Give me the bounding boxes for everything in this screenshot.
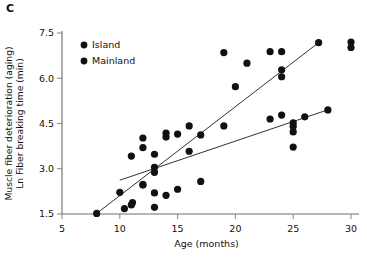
data-point-mainland	[121, 205, 128, 212]
x-tick-label: 25	[287, 223, 299, 234]
data-point-mainland	[139, 181, 146, 188]
y-axis-title-line1: Muscle fiber deterioration (aging)	[3, 46, 14, 200]
x-tick-label: 30	[345, 223, 357, 234]
regression-line-mainland	[120, 109, 330, 180]
y-tick-label: 1.5	[39, 208, 54, 219]
y-tick-label: 6.0	[39, 73, 54, 84]
data-point-island	[139, 134, 146, 141]
data-point-island	[197, 131, 204, 138]
legend-marker-island	[81, 42, 88, 49]
data-point-mainland	[220, 122, 227, 129]
x-axis-title: Age (months)	[174, 238, 239, 249]
y-tick-label: 3.0	[39, 163, 54, 174]
data-point-island	[162, 130, 169, 137]
data-point-mainland	[129, 199, 136, 206]
legend-marker-mainland	[81, 58, 88, 65]
data-point-mainland	[278, 111, 285, 118]
data-point-island	[315, 39, 322, 46]
data-point-mainland	[162, 192, 169, 199]
data-point-island	[266, 48, 273, 55]
data-point-island	[139, 144, 146, 151]
data-point-island	[278, 73, 285, 80]
data-point-mainland	[266, 115, 273, 122]
legend-label-mainland: Mainland	[92, 55, 135, 66]
regression-line-island	[97, 43, 319, 214]
data-point-island	[347, 44, 354, 51]
y-tick-label: 7.5	[39, 27, 54, 38]
y-axis-title-line2: Ln Fiber breaking time (min)	[14, 58, 25, 189]
data-point-island	[232, 83, 239, 90]
x-tick-label: 15	[172, 223, 184, 234]
figure-panel-c: C 1.53.04.56.07.551015202530Age (months)…	[0, 0, 367, 257]
data-point-island	[243, 60, 250, 67]
data-point-island	[93, 210, 100, 217]
data-point-mainland	[174, 186, 181, 193]
data-point-island	[220, 49, 227, 56]
data-point-island	[116, 189, 123, 196]
data-point-mainland	[197, 178, 204, 185]
scatter-plot: 1.53.04.56.07.551015202530Age (months)Mu…	[0, 0, 367, 257]
x-tick-label: 20	[229, 223, 241, 234]
data-point-island	[174, 130, 181, 137]
data-point-island	[151, 151, 158, 158]
data-point-mainland	[324, 106, 331, 113]
data-point-island	[128, 152, 135, 159]
y-tick-label: 4.5	[39, 118, 54, 129]
data-point-island	[186, 122, 193, 129]
data-point-island	[151, 169, 158, 176]
data-point-mainland	[290, 128, 297, 135]
data-point-island	[186, 148, 193, 155]
data-point-island	[278, 66, 285, 73]
data-point-mainland	[290, 143, 297, 150]
data-point-mainland	[301, 113, 308, 120]
data-point-mainland	[151, 204, 158, 211]
data-point-mainland	[151, 189, 158, 196]
legend-label-island: Island	[92, 39, 120, 50]
data-point-island	[278, 48, 285, 55]
x-tick-label: 5	[59, 223, 65, 234]
x-tick-label: 10	[114, 223, 126, 234]
